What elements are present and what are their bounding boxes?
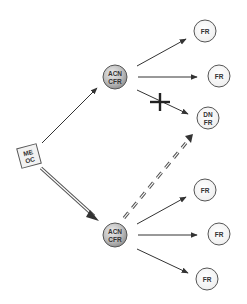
node-hub-bottom[interactable]: ACN CFR [103, 223, 127, 247]
edge-source-to-hub-top [42, 88, 97, 143]
diagram-canvas: ME OC ACN CFR ACN CFR FR FR DN FR FR FR [0, 0, 247, 304]
node-leaf-2[interactable]: FR [208, 65, 230, 87]
node-hub-top[interactable]: ACN CFR [103, 65, 127, 89]
node-leaf-6[interactable]: FR [196, 268, 218, 290]
node-leaf-5[interactable]: FR [208, 223, 230, 245]
edge-source-to-hub-bottom [41, 168, 99, 221]
node-leaf-2-label: FR [215, 73, 224, 80]
node-leaf-dn-line2: FR [204, 119, 213, 126]
node-hub-top-line2: CFR [108, 78, 122, 85]
edge-hub-bottom-to-leaf-dn [124, 134, 193, 218]
node-leaf-5-label: FR [215, 231, 224, 238]
node-hub-bottom-line2: CFR [108, 236, 122, 243]
edge-hub-bottom-to-leaf-4 [137, 197, 186, 224]
node-source[interactable]: ME OC [17, 144, 41, 168]
node-hub-top-line1: ACN [108, 70, 122, 77]
node-leaf-6-label: FR [203, 276, 212, 283]
node-hub-bottom-line1: ACN [108, 228, 122, 235]
node-leaf-4[interactable]: FR [194, 179, 216, 201]
node-leaf-1-label: FR [201, 28, 210, 35]
edge-hub-bottom-to-leaf-6 [137, 249, 188, 273]
node-leaf-4-label: FR [201, 187, 210, 194]
node-leaf-dn-line1: DN [203, 111, 213, 118]
edge-hub-top-to-leaf-1 [137, 39, 186, 66]
node-leaf-1[interactable]: FR [194, 20, 216, 42]
node-leaf-dn[interactable]: DN FR [197, 107, 219, 129]
cross-icon [150, 93, 170, 111]
